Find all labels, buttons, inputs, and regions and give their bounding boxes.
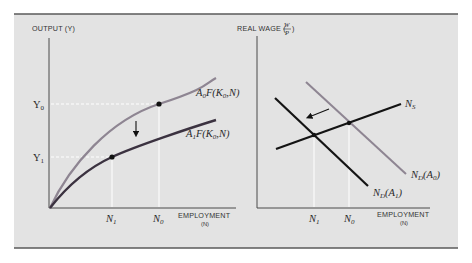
point-n1-y1 [109, 154, 114, 159]
right-y-axis-label: REAL WAGE ( [237, 24, 286, 33]
equilibrium-n0 [347, 121, 351, 125]
figure: OUTPUT (Y) Y0 Y1 N1 N0 EMPLOYMENT (N) [0, 0, 472, 263]
x-axis-label: EMPLOYMENT [178, 211, 231, 220]
point-n0-y0 [156, 101, 161, 106]
equilibrium-n1 [312, 133, 316, 137]
y-axis-label: OUTPUT (Y) [32, 24, 75, 33]
real-wage-close-paren: ) [292, 24, 295, 33]
x-axis-sublabel: (N) [201, 221, 209, 227]
real-wage-fraction-denominator: P [284, 29, 289, 36]
right-x-axis-sublabel: (N) [400, 220, 408, 226]
real-wage-fraction-numerator: W [284, 21, 290, 28]
right-x-axis-label: EMPLOYMENT [377, 210, 430, 219]
